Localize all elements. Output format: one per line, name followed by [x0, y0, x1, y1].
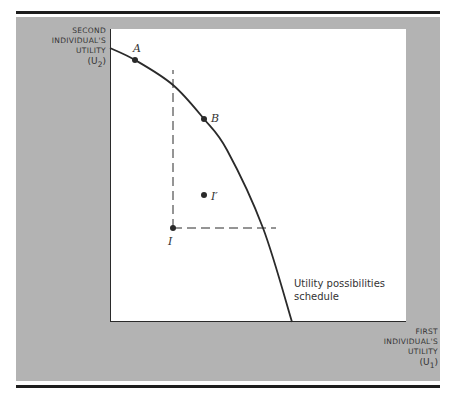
curve-label-line2: schedule — [294, 291, 339, 302]
utility-possibilities-curve — [110, 48, 292, 322]
chart-svg: A B I′ I Utility possibilities schedule — [0, 0, 453, 397]
point-i-prime — [201, 192, 207, 198]
label-i: I — [167, 235, 173, 248]
label-b: B — [210, 112, 219, 125]
bottom-rule — [16, 385, 440, 388]
point-a — [132, 57, 138, 63]
point-b — [201, 116, 207, 122]
point-i — [170, 225, 176, 231]
label-i-prime: I′ — [210, 190, 218, 203]
curve-label-line1: Utility possibilities — [294, 278, 385, 289]
label-a: A — [132, 42, 141, 55]
